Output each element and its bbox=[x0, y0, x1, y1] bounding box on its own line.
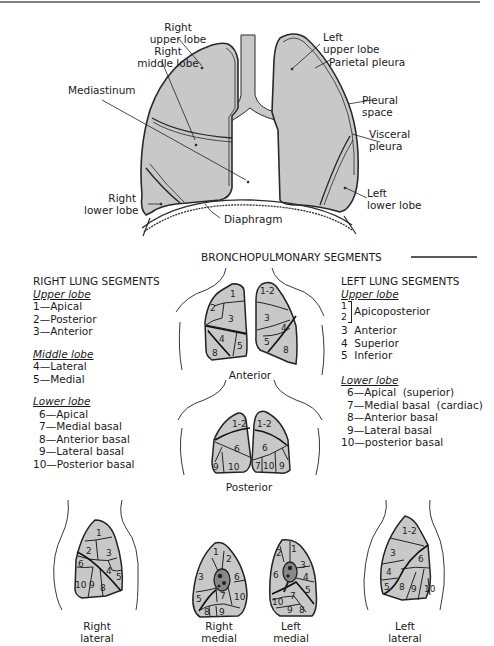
left-segments-list: LEFT LUNG SEGMENTS Upper lobe 1 2 Apicop… bbox=[341, 275, 483, 449]
segment-number: 5 bbox=[384, 582, 390, 592]
anterior-view: 1 2 3 4 5 8 1-2 3 4 5 8 bbox=[176, 268, 324, 375]
segment-number: 5 bbox=[264, 337, 270, 347]
segment-number: 7 bbox=[290, 591, 296, 601]
segment-item: 9—Lateral basal bbox=[341, 424, 483, 437]
segment-number: 9 bbox=[219, 607, 225, 617]
right-middle-lobe-heading: Middle lobe bbox=[33, 348, 160, 361]
segment-number: 4 bbox=[386, 567, 392, 577]
label-left-upper-lobe: Left upper lobe bbox=[323, 31, 380, 55]
segment-number: 6 bbox=[273, 570, 279, 580]
right-medial-view: 1 2 3 6 7 5 10 8 9 bbox=[193, 542, 247, 617]
segment-number: 9 bbox=[213, 462, 219, 472]
hilum bbox=[283, 562, 297, 582]
segment-item: 10—posterior basal bbox=[341, 436, 483, 449]
right-upper-lobe-heading: Upper lobe bbox=[33, 288, 160, 301]
segment-number: 1 bbox=[291, 544, 297, 554]
label-mediastinum: Mediastinum bbox=[68, 84, 136, 96]
segment-number: 8 bbox=[204, 607, 210, 617]
label-parietal-pleura: Parietal pleura bbox=[329, 56, 405, 68]
segment-number: 6 bbox=[262, 443, 268, 453]
label-visceral-pleura: Visceral pleura bbox=[369, 128, 410, 152]
hilum bbox=[214, 569, 230, 591]
segment-number: 10 bbox=[228, 462, 240, 472]
segment-number: 6 bbox=[234, 444, 240, 454]
segment-number: 9 bbox=[411, 584, 417, 594]
bracket bbox=[348, 301, 352, 323]
right-segments-title: RIGHT LUNG SEGMENTS bbox=[33, 275, 160, 288]
segment-number: 1-2 bbox=[232, 419, 247, 429]
caption-left-medial: Left medial bbox=[266, 620, 316, 644]
left-upper-lobe-heading: Upper lobe bbox=[341, 288, 483, 301]
segment-item: 4—Lateral bbox=[33, 360, 160, 373]
label-right-lower-lobe: Right lower lobe bbox=[84, 192, 136, 216]
segment-number: 2 bbox=[86, 546, 92, 556]
caption-anterior: Anterior bbox=[215, 369, 285, 381]
segment-number: 7 bbox=[255, 461, 261, 471]
segment-number: 2 bbox=[210, 303, 216, 313]
segment-number: 2 bbox=[276, 548, 282, 558]
segment-number: 4 bbox=[219, 334, 225, 344]
label-diaphragm: Diaphragm bbox=[224, 213, 282, 225]
label-pleural-space: Pleural space bbox=[362, 94, 398, 118]
segment-item: 7—Medial basal (cardiac) bbox=[341, 399, 483, 412]
segment-number: 10 bbox=[424, 584, 436, 594]
segment-item: 9—Lateral basal bbox=[33, 445, 160, 458]
segment-number: 2 bbox=[226, 554, 232, 564]
segment-number: 4 bbox=[106, 566, 112, 576]
right-lower-lobe-heading: Lower lobe bbox=[33, 395, 160, 408]
caption-left-lateral: Left lateral bbox=[380, 620, 430, 644]
segment-item: 5—Medial bbox=[33, 373, 160, 386]
segment-number: 3 bbox=[198, 572, 204, 582]
segment-item: 6—Apical (superior) bbox=[341, 386, 483, 399]
left-lateral-view: 1-2 3 6 4 5 8 9 10 bbox=[364, 500, 444, 610]
segment-number: 3 bbox=[300, 560, 306, 570]
segment-item: 3 Anterior bbox=[341, 324, 483, 337]
segment-number: 10 bbox=[234, 592, 246, 602]
caption-posterior: Posterior bbox=[214, 481, 284, 493]
segment-number: 6 bbox=[234, 572, 240, 582]
segment-item: 10—Posterior basal bbox=[33, 458, 160, 471]
segment-number: 5 bbox=[196, 594, 202, 604]
segment-number: 1-2 bbox=[260, 286, 275, 296]
segment-number: 7 bbox=[220, 591, 226, 601]
segment-item: 2—Posterior bbox=[33, 313, 160, 326]
segment-number: 5 bbox=[305, 585, 311, 595]
apicoposterior-group: 1 2 Apicoposterior bbox=[341, 300, 483, 324]
segment-number: 3 bbox=[228, 314, 234, 324]
label-right-upper-lobe: Right upper lobe bbox=[148, 21, 208, 45]
segment-number: 5 bbox=[237, 341, 243, 351]
segment-number: 6 bbox=[78, 559, 84, 569]
segment-number: 4 bbox=[303, 572, 309, 582]
segment-number: 5 bbox=[116, 572, 122, 582]
label-right-middle-lobe: Right middle lobe bbox=[128, 45, 208, 69]
segment-number: 8 bbox=[283, 345, 289, 355]
segment-number: 3 bbox=[264, 313, 270, 323]
segment-number: 10 bbox=[263, 461, 275, 471]
segment-number: 1-2 bbox=[257, 419, 272, 429]
segment-number: 1 bbox=[96, 528, 102, 538]
segment-item: 4 Superior bbox=[341, 337, 483, 350]
segment-item: 1—Apical bbox=[33, 300, 160, 313]
left-medial-view: 2 1 3 6 4 5 10 7 9 8 bbox=[270, 540, 317, 616]
segment-number: 9 bbox=[287, 605, 293, 615]
segment-number: 9 bbox=[89, 580, 95, 590]
segment-number: 10 bbox=[75, 580, 87, 590]
segment-number: 1 bbox=[213, 547, 219, 557]
posterior-view: 1-2 6 9 10 1-2 6 7 10 9 bbox=[178, 380, 322, 475]
segment-item: 3—Anterior bbox=[33, 325, 160, 338]
right-lateral-view: 1 2 3 6 4 5 10 9 8 bbox=[54, 500, 139, 610]
segment-item: 8—Anterior basal bbox=[341, 411, 483, 424]
segment-number: 8 bbox=[212, 348, 218, 358]
segment-number: 4 bbox=[281, 323, 287, 333]
caption-right-lateral: Right lateral bbox=[72, 620, 122, 644]
segment-number: 3 bbox=[390, 548, 396, 558]
segment-number: 8 bbox=[299, 605, 305, 615]
label-left-lower-lobe: Left lower lobe bbox=[367, 187, 422, 211]
segment-item: 5 Inferior bbox=[341, 349, 483, 362]
segment-number: 6 bbox=[418, 554, 424, 564]
right-segments-list: RIGHT LUNG SEGMENTS Upper lobe 1—Apical … bbox=[33, 275, 160, 470]
segment-number: 10 bbox=[272, 597, 284, 607]
segment-number: 1-2 bbox=[402, 526, 417, 536]
caption-right-medial: Right medial bbox=[194, 620, 244, 644]
segment-number: 9 bbox=[279, 461, 285, 471]
